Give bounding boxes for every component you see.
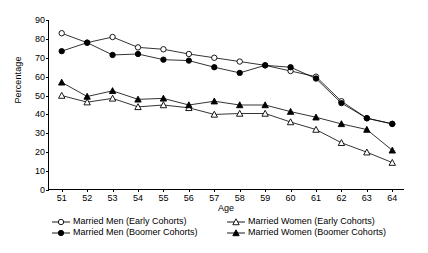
legend-item-label: Married Men (Boomer Cohorts): [73, 227, 198, 238]
x-axis-label: Age: [48, 203, 404, 213]
y-tick-mark: [46, 190, 49, 191]
y-tick-label: 70: [35, 53, 45, 62]
legend-row: Married Men (Early Cohorts)Married Women…: [52, 216, 412, 227]
legend-marker-filled-triangle-icon: [227, 228, 245, 238]
x-tick-mark: [291, 189, 292, 192]
y-tick-mark: [46, 114, 49, 115]
y-tick-label: 60: [35, 72, 45, 81]
x-tick-label: 63: [362, 194, 372, 203]
data-point-marker: [59, 79, 65, 85]
chart-legend: Married Men (Early Cohorts)Married Women…: [52, 216, 412, 238]
data-point-marker: [135, 51, 140, 56]
x-tick-label: 61: [311, 194, 321, 203]
x-tick-label: 52: [82, 194, 92, 203]
data-point-marker: [364, 116, 369, 121]
x-tick-mark: [316, 189, 317, 192]
data-point-marker: [338, 140, 344, 146]
x-tick-mark: [240, 189, 241, 192]
y-tick-label: 90: [35, 16, 45, 25]
data-point-marker: [339, 100, 344, 105]
y-tick-mark: [46, 77, 49, 78]
data-point-marker: [161, 57, 166, 62]
x-tick-mark: [62, 189, 63, 192]
chart-svg: [49, 20, 405, 190]
data-point-marker: [262, 63, 267, 68]
legend-item[interactable]: Married Men (Boomer Cohorts): [52, 227, 227, 238]
y-tick-label: 30: [35, 129, 45, 138]
x-tick-label: 59: [260, 194, 270, 203]
data-point-marker: [389, 159, 395, 165]
x-tick-label: 57: [209, 194, 219, 203]
data-point-marker: [212, 65, 217, 70]
data-point-marker: [237, 59, 242, 64]
plot-area: 0102030405060708090515253545556575859606…: [48, 20, 404, 190]
data-point-marker: [186, 58, 191, 63]
legend-item-label: Married Women (Early Cohorts): [248, 216, 375, 227]
y-tick-label: 80: [35, 34, 45, 43]
series-line: [62, 33, 393, 124]
x-tick-mark: [87, 189, 88, 192]
data-point-marker: [58, 219, 63, 224]
y-tick-mark: [46, 96, 49, 97]
x-tick-label: 58: [235, 194, 245, 203]
x-tick-label: 60: [286, 194, 296, 203]
data-point-marker: [211, 98, 217, 104]
data-point-marker: [110, 52, 115, 57]
x-tick-mark: [214, 189, 215, 192]
x-tick-mark: [341, 189, 342, 192]
y-tick-label: 20: [35, 148, 45, 157]
series-0: [59, 31, 395, 127]
y-tick-mark: [46, 171, 49, 172]
y-tick-label: 50: [35, 91, 45, 100]
data-point-marker: [110, 34, 115, 39]
data-point-marker: [287, 119, 293, 125]
legend-item[interactable]: Married Women (Early Cohorts): [227, 216, 412, 227]
data-point-marker: [212, 55, 217, 60]
data-point-marker: [58, 230, 63, 235]
x-tick-label: 56: [184, 194, 194, 203]
data-point-marker: [135, 45, 140, 50]
x-tick-mark: [163, 189, 164, 192]
y-tick-label: 40: [35, 110, 45, 119]
y-tick-label: 0: [40, 186, 45, 195]
x-tick-label: 51: [57, 194, 67, 203]
x-tick-label: 54: [133, 194, 143, 203]
series-3: [59, 79, 396, 153]
x-tick-mark: [392, 189, 393, 192]
y-tick-mark: [46, 58, 49, 59]
data-point-marker: [59, 92, 65, 98]
legend-marker-open-triangle-icon: [227, 217, 245, 227]
legend-item[interactable]: Married Women (Boomer Cohorts): [227, 227, 412, 238]
y-tick-mark: [46, 20, 49, 21]
legend-row: Married Men (Boomer Cohorts)Married Wome…: [52, 227, 412, 238]
x-tick-label: 62: [336, 194, 346, 203]
data-point-marker: [390, 121, 395, 126]
x-tick-mark: [113, 189, 114, 192]
data-point-marker: [160, 102, 166, 108]
x-tick-mark: [138, 189, 139, 192]
data-point-marker: [161, 47, 166, 52]
x-tick-mark: [189, 189, 190, 192]
data-point-marker: [109, 95, 115, 101]
data-point-marker: [186, 51, 191, 56]
data-point-marker: [84, 40, 89, 45]
chart-figure: Percentage 01020304050607080905152535455…: [0, 0, 428, 253]
data-point-marker: [59, 48, 64, 53]
x-tick-mark: [367, 189, 368, 192]
legend-marker-open-circle-icon: [52, 217, 70, 227]
x-tick-label: 55: [158, 194, 168, 203]
x-tick-label: 64: [387, 194, 397, 203]
data-point-marker: [288, 65, 293, 70]
legend-item[interactable]: Married Men (Early Cohorts): [52, 216, 227, 227]
data-point-marker: [59, 31, 64, 36]
data-point-marker: [109, 88, 115, 94]
y-tick-mark: [46, 133, 49, 134]
y-tick-label: 10: [35, 167, 45, 176]
legend-item-label: Married Women (Boomer Cohorts): [248, 227, 386, 238]
y-tick-mark: [46, 39, 49, 40]
y-axis-label: Percentage: [13, 40, 23, 120]
data-point-marker: [313, 126, 319, 132]
x-tick-mark: [265, 189, 266, 192]
data-point-marker: [364, 149, 370, 155]
data-point-marker: [237, 70, 242, 75]
